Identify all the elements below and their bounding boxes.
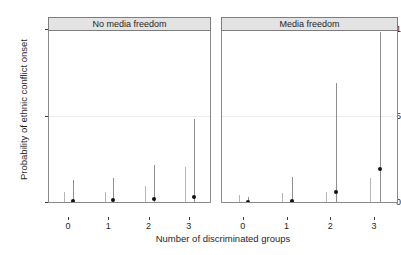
x-axis-tick-label: 2 <box>328 221 333 231</box>
data-point-marker <box>111 198 115 202</box>
error-bar <box>380 32 381 202</box>
y-axis-title: Probability of ethnic conflict onset <box>18 15 29 205</box>
facet-strip-label-left: No media freedom <box>48 17 211 31</box>
x-axis-tick-label: 2 <box>146 221 151 231</box>
chart-figure: Probability of ethnic conflict onset 00.… <box>0 0 401 255</box>
x-axis-tick-mark <box>287 217 288 220</box>
facet-strip-label-right: Media freedom <box>221 17 398 31</box>
data-point-marker <box>290 199 294 203</box>
zero-reference-line <box>222 202 397 203</box>
error-bar <box>145 186 146 202</box>
error-bar <box>282 193 283 202</box>
data-point-marker <box>71 199 75 203</box>
x-axis-tick-mark <box>149 217 150 220</box>
error-bar <box>239 195 240 202</box>
x-axis-tick-label: 3 <box>186 221 191 231</box>
zero-reference-line <box>49 202 210 203</box>
facet-panel-no-media-freedom: No media freedom 0123 <box>48 17 211 203</box>
x-axis-tick-label: 0 <box>240 221 245 231</box>
x-axis-tick-mark <box>68 217 69 220</box>
data-point-marker <box>152 197 156 201</box>
plot-area-right <box>221 31 398 203</box>
x-axis-title: Number of discriminated groups <box>48 233 398 244</box>
gridline <box>49 116 210 117</box>
plot-area-left <box>48 31 211 203</box>
error-bar <box>185 167 186 202</box>
x-axis-tick-mark <box>243 217 244 220</box>
data-point-marker <box>246 200 250 203</box>
x-axis-tick-label: 1 <box>106 221 111 231</box>
x-axis-tick-mark <box>330 217 331 220</box>
error-bar <box>336 83 337 202</box>
data-point-marker <box>378 167 382 171</box>
x-axis-tick-label: 3 <box>372 221 377 231</box>
x-axis-tick-mark <box>374 217 375 220</box>
error-bar <box>64 192 65 202</box>
x-axis-tick-mark <box>189 217 190 220</box>
data-point-marker <box>192 195 196 199</box>
error-bar <box>326 192 327 202</box>
x-axis-tick-mark <box>108 217 109 220</box>
data-point-marker <box>334 190 338 194</box>
x-axis-tick-label: 1 <box>284 221 289 231</box>
error-bar <box>370 178 371 202</box>
error-bar <box>194 119 195 202</box>
facet-panel-media-freedom: Media freedom 0123 <box>221 17 398 203</box>
x-axis-tick-label: 0 <box>66 221 71 231</box>
gridline <box>222 116 397 117</box>
error-bar <box>105 192 106 202</box>
